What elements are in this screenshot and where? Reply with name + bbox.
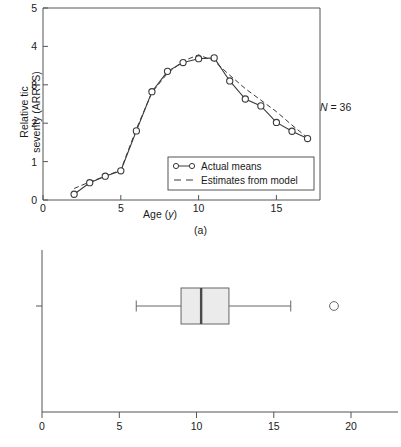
n-value: = 36	[328, 101, 352, 113]
x-tick-label: 0	[39, 420, 45, 430]
legend-label-actual-means: Actual means	[201, 161, 262, 172]
x-tick-label: 5	[116, 420, 122, 430]
boxplot-tics	[136, 288, 338, 324]
x-tick-label: 10	[191, 420, 203, 430]
panel-a-caption: (a)	[0, 224, 401, 236]
panel-a-line-chart: 0 1 2 3 4 5 0 5 10 15	[0, 0, 401, 240]
x-tick-label: 15	[268, 420, 280, 430]
x-axis-title-suffix: )	[173, 208, 177, 220]
panel-a-sample-size-annotation: N = 36	[320, 101, 351, 113]
panel-a-x-axis-title: Age (y)	[0, 208, 320, 220]
x-tick-label: 20	[345, 420, 357, 430]
y-tick-label: 5	[31, 2, 37, 14]
y-axis-title-line1: Relative tic	[18, 86, 30, 137]
y-tick-label: 0	[31, 194, 37, 206]
panel-a-y-axis-title: Relative tic severity (ARRTS)	[18, 37, 42, 187]
panel-a-y-ticks	[43, 8, 48, 200]
panel-a-legend: Actual means Estimates from model	[168, 157, 314, 190]
n-symbol: N	[320, 101, 328, 113]
legend-label-estimates: Estimates from model	[201, 175, 298, 186]
figure-container: 0 1 2 3 4 5 0 5 10 15	[0, 0, 401, 447]
panel-a-x-ticks	[43, 195, 276, 200]
panel-b-plot-area: 0 5 10 15 20	[0, 240, 401, 430]
y-axis-title-line2: severity (ARRTS)	[30, 71, 42, 152]
x-axis-title-prefix: Age (	[143, 208, 168, 220]
panel-b-x-tick-labels: 0 5 10 15 20	[39, 420, 357, 430]
panel-b-box-plot: 0 5 10 15 20 Tics Age at worst-ever symp…	[0, 240, 401, 447]
panel-b-x-ticks	[42, 412, 351, 418]
panel-b-axes	[42, 250, 398, 412]
